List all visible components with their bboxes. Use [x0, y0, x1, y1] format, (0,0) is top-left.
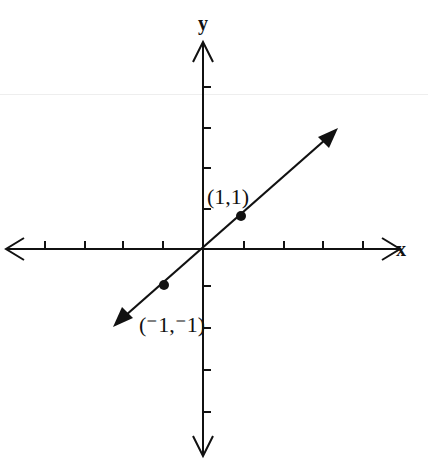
point-1-1: [236, 211, 246, 221]
x-axis-label: x: [396, 238, 406, 260]
point-label-1-1: (1,1): [207, 184, 249, 209]
label-minus-1: ⁻: [146, 312, 158, 337]
coordinate-plane: x y (1,1) (⁻1,⁻1): [0, 0, 428, 464]
line-upper-arrow-icon: [318, 128, 338, 148]
label-minus-2: ⁻: [175, 312, 187, 337]
label-one-2: 1): [187, 312, 205, 337]
line-lower-arrow-icon: [113, 307, 133, 327]
y-axis-label: y: [198, 12, 208, 35]
line-y-equals-x: [113, 128, 338, 327]
label-one-1: 1,: [158, 312, 175, 337]
label-open-paren: (: [139, 312, 146, 337]
point-label-neg1-neg1: (⁻1,⁻1): [139, 312, 205, 337]
point-neg1-neg1: [159, 280, 169, 290]
